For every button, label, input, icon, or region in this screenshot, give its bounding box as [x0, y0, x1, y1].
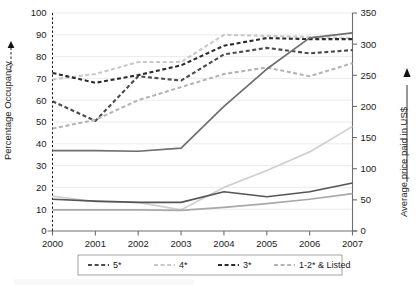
x-tick-label: 2006 [299, 238, 320, 249]
right-tick-label: 300 [361, 39, 377, 50]
right-axis-title-group: Average price paid in US$ [398, 68, 411, 217]
chart-container: 0102030405060708090100 05010015020025030… [0, 0, 419, 286]
legend-item-label: 3* [243, 260, 252, 270]
left-tick-label: 50 [36, 116, 47, 127]
right-tick-label: 100 [361, 163, 377, 174]
occupancy-and-price-line-chart: 0102030405060708090100 05010015020025030… [0, 0, 419, 286]
left-tick-label: 40 [36, 138, 47, 149]
left-tick-label: 80 [36, 51, 47, 62]
x-tick-label: 2004 [213, 238, 234, 249]
left-axis-arrow-head [8, 41, 15, 48]
x-tick-label: 2002 [128, 238, 149, 249]
series-line-5-price [53, 33, 353, 151]
x-tick-label: 2001 [85, 238, 106, 249]
legend-item-3[interactable]: 3* [218, 260, 252, 270]
x-tick-label: 2005 [256, 238, 277, 249]
right-axis-arrow-head [403, 68, 410, 77]
legend-item-1-2-listed[interactable]: 1-2* & Listed [274, 260, 351, 270]
x-axis-ticks: 20002001200220032004200520062007 [42, 231, 363, 249]
right-tick-label: 150 [361, 132, 377, 143]
series-line-4 [53, 35, 353, 80]
left-tick-label: 0 [41, 225, 46, 236]
legend-item-label: 4* [179, 260, 188, 270]
left-tick-label: 20 [36, 182, 47, 193]
left-tick-label: 60 [36, 95, 47, 106]
left-axis-title: Percentage Occupancy [2, 61, 13, 160]
right-tick-label: 350 [361, 7, 377, 18]
x-tick-label: 2003 [171, 238, 192, 249]
left-tick-label: 10 [36, 204, 47, 215]
legend-item-label: 5* [113, 260, 122, 270]
right-tick-label: 50 [361, 194, 372, 205]
legend[interactable]: 5*4*3*1-2* & Listed [78, 255, 351, 275]
legend-items[interactable]: 5*4*3*1-2* & Listed [88, 260, 351, 270]
left-axis-ticks: 0102030405060708090100 [31, 7, 47, 236]
left-axis-title-group: Percentage Occupancy [2, 41, 14, 160]
footer-caption-strip [14, 279, 194, 285]
left-tick-label: 100 [31, 7, 47, 18]
left-tick-label: 70 [36, 73, 47, 84]
left-tick-label: 90 [36, 29, 47, 40]
left-tick-label: 30 [36, 160, 47, 171]
right-axis-ticks: 050100150200250300350 [353, 7, 377, 236]
x-tick-label: 2007 [342, 238, 363, 249]
legend-item-4[interactable]: 4* [154, 260, 188, 270]
right-tick-label: 200 [361, 101, 377, 112]
x-tick-label: 2000 [42, 238, 63, 249]
right-tick-label: 0 [361, 225, 366, 236]
legend-item-5[interactable]: 5* [88, 260, 122, 270]
series-line-5 [53, 48, 353, 121]
legend-item-label: 1-2* & Listed [299, 260, 351, 270]
grid-lines [53, 13, 353, 209]
right-tick-label: 250 [361, 70, 377, 81]
